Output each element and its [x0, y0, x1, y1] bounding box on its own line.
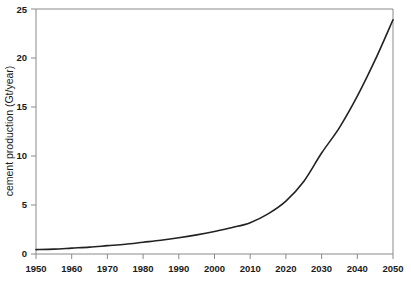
y-tick-label-0: 0: [22, 248, 27, 259]
x-tick-label-1950: 1950: [25, 263, 46, 274]
x-tick-label-1980: 1980: [133, 263, 154, 274]
x-tick-label-1960: 1960: [61, 263, 82, 274]
x-tick-label-1990: 1990: [168, 263, 189, 274]
y-tick-label-15: 15: [16, 101, 27, 112]
x-tick-label-2030: 2030: [311, 263, 332, 274]
chart-background: [0, 0, 411, 286]
cement-production-line-chart: 0 5 10 15 20 25 1950 1960 1970 1980 1990: [0, 0, 411, 286]
y-axis-title: cement production (Gt/year): [3, 66, 15, 197]
x-tick-label-2000: 2000: [204, 263, 225, 274]
y-tick-label-5: 5: [22, 199, 28, 210]
x-tick-label-2020: 2020: [275, 263, 296, 274]
y-tick-label-25: 25: [16, 4, 27, 15]
y-tick-label-10: 10: [16, 150, 27, 161]
x-tick-label-2010: 2010: [240, 263, 261, 274]
x-tick-label-2040: 2040: [347, 263, 368, 274]
x-tick-label-2050: 2050: [382, 263, 403, 274]
y-tick-label-20: 20: [16, 52, 27, 63]
x-tick-label-1970: 1970: [97, 263, 118, 274]
chart-page: 0 5 10 15 20 25 1950 1960 1970 1980 1990: [0, 0, 411, 286]
